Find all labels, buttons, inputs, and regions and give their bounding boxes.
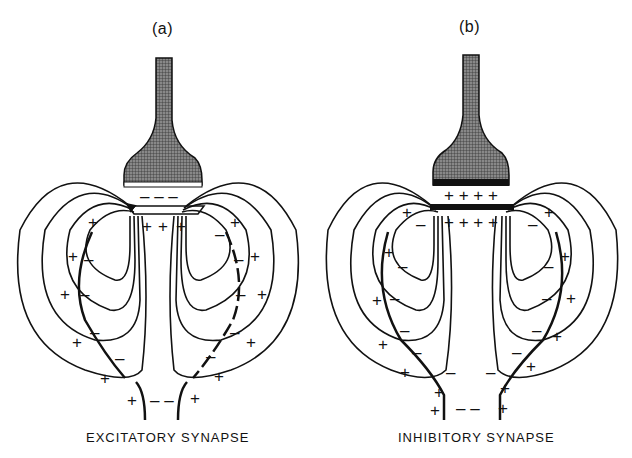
svg-text:+: + <box>60 285 70 304</box>
svg-text:+: + <box>400 363 410 382</box>
svg-text:+: + <box>158 217 168 236</box>
svg-text:–: – <box>416 215 426 234</box>
svg-text:–: – <box>412 343 422 362</box>
svg-text:+: + <box>434 383 444 402</box>
svg-text:+: + <box>100 369 110 388</box>
presynaptic-terminal <box>433 55 509 185</box>
inhibitory-synapse-diagram: + + + + + + + + +– +– +– +– +– +– +– – +… <box>316 0 632 458</box>
svg-text:–: – <box>90 323 100 342</box>
svg-text:+: + <box>190 389 200 408</box>
svg-text:–: – <box>230 323 240 342</box>
svg-text:–: – <box>542 289 552 308</box>
caption-inhibitory: INHIBITORY SYNAPSE <box>398 430 555 445</box>
svg-text:+: + <box>142 217 152 236</box>
svg-text:–: – <box>446 363 456 382</box>
svg-text:+: + <box>176 217 186 236</box>
excitatory-synapse-diagram: – – – + + + + +– +– +– +– +– – +– <box>0 0 316 458</box>
svg-text:+: + <box>250 247 260 266</box>
svg-text:+: + <box>544 203 554 222</box>
svg-text:+: + <box>127 391 137 410</box>
svg-text:+: + <box>384 243 394 262</box>
svg-text:–: – <box>206 347 216 366</box>
panel-excitatory: (a) – – – <box>0 0 316 458</box>
svg-text:+ + + +: + + + + <box>444 186 498 205</box>
svg-text:–: – <box>544 257 554 276</box>
presynaptic-terminal <box>124 58 202 185</box>
svg-text:+: + <box>246 333 256 352</box>
svg-text:+: + <box>402 203 412 222</box>
svg-text:+: + <box>430 401 440 420</box>
svg-text:–: – <box>390 289 400 308</box>
svg-text:+: + <box>68 247 78 266</box>
svg-text:+: + <box>230 213 240 232</box>
svg-text:+: + <box>88 213 98 232</box>
svg-text:–: – <box>532 321 542 340</box>
svg-text:–: – <box>80 285 90 304</box>
svg-text:+: + <box>378 335 388 354</box>
caption-excitatory: EXCITATORY SYNAPSE <box>86 430 249 445</box>
svg-text:+: + <box>500 379 510 398</box>
svg-text:–: – <box>528 215 538 234</box>
svg-text:–: – <box>512 343 522 362</box>
svg-text:–: – <box>398 257 408 276</box>
svg-text:–: – <box>486 363 496 382</box>
svg-text:+: + <box>498 399 508 418</box>
svg-text:+: + <box>72 333 82 352</box>
svg-text:– –: – – <box>456 399 480 418</box>
svg-text:–: – <box>115 349 125 368</box>
svg-text:+: + <box>257 285 267 304</box>
svg-text:– –: – – <box>150 391 174 410</box>
svg-text:+: + <box>552 327 562 346</box>
svg-text:–: – <box>236 285 246 304</box>
svg-text:–: – <box>215 225 225 244</box>
svg-text:–: – <box>84 250 94 269</box>
svg-text:+ + + +: + + + + <box>444 213 498 232</box>
svg-text:+: + <box>214 367 224 386</box>
svg-text:+: + <box>560 247 570 266</box>
svg-text:+: + <box>372 291 382 310</box>
svg-text:–: – <box>234 250 244 269</box>
svg-text:+: + <box>526 357 536 376</box>
panel-inhibitory: (b) + + + + + + + + +– +– +– +– <box>316 0 632 458</box>
svg-text:+: + <box>566 289 576 308</box>
svg-text:– – –: – – – <box>140 187 178 206</box>
svg-text:–: – <box>400 321 410 340</box>
